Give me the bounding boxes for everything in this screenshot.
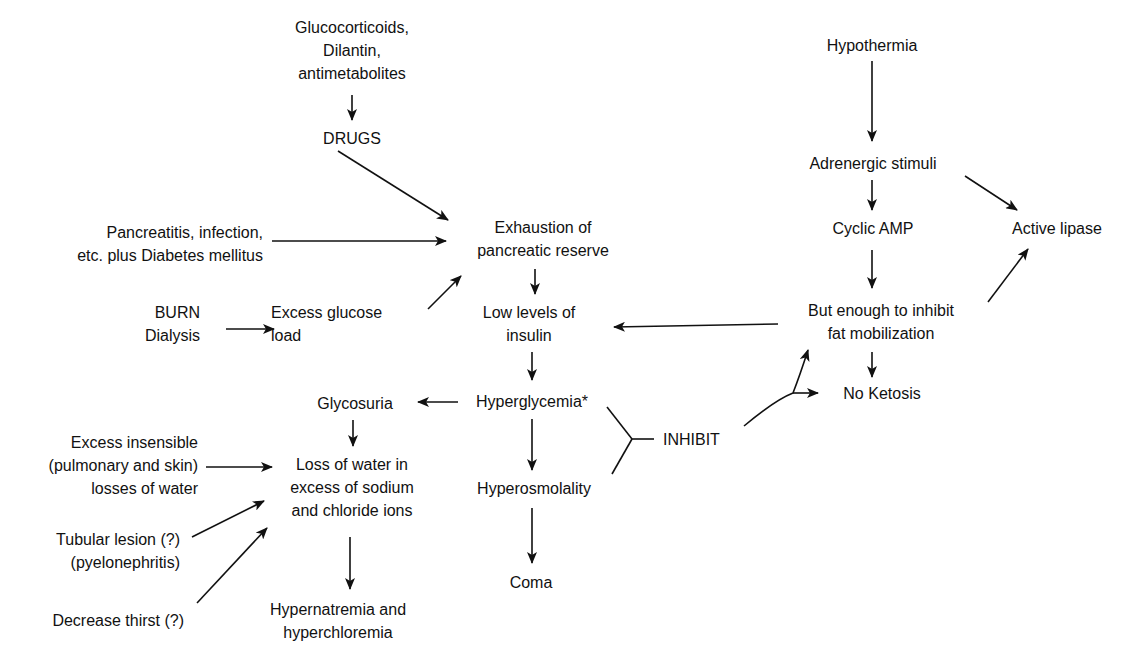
node-label-line: Hypernatremia and xyxy=(270,598,406,621)
node-label-line: Loss of water in xyxy=(290,453,414,476)
node-label-line: Hypothermia xyxy=(827,34,918,57)
node-label-line: Active lipase xyxy=(1012,217,1102,240)
node-hypothermia: Hypothermia xyxy=(827,34,918,57)
node-label-line: etc. plus Diabetes mellitus xyxy=(77,244,263,267)
node-label-line: Adrenergic stimuli xyxy=(809,152,936,175)
node-label-line: Cyclic AMP xyxy=(833,217,914,240)
bracket-upper-line xyxy=(607,407,632,439)
node-hyperglycemia: Hyperglycemia* xyxy=(476,390,588,413)
node-hyperosmolality: Hyperosmolality xyxy=(477,477,591,500)
node-label-line: insulin xyxy=(483,324,576,347)
node-label-line: Glycosuria xyxy=(317,392,393,415)
node-label-line: load xyxy=(271,324,382,347)
node-label-line: (pulmonary and skin) xyxy=(49,454,198,477)
node-burn: BURNDialysis xyxy=(145,301,200,347)
node-label-line: But enough to inhibit xyxy=(808,299,954,322)
node-low-insulin: Low levels ofinsulin xyxy=(483,301,576,347)
node-label-line: antimetabolites xyxy=(295,62,409,85)
node-but-enough: But enough to inhibitfat mobilization xyxy=(808,299,954,345)
node-label-line: and chloride ions xyxy=(290,499,414,522)
node-label-line: fat mobilization xyxy=(808,322,954,345)
node-loss-water: Loss of water inexcess of sodiumand chlo… xyxy=(290,453,414,522)
node-inhibit: INHIBIT xyxy=(663,428,720,451)
node-coma: Coma xyxy=(510,571,553,594)
node-label-line: losses of water xyxy=(49,477,198,500)
node-pancreatitis: Pancreatitis, infection,etc. plus Diabet… xyxy=(77,221,263,267)
node-label-line: Glucocorticoids, xyxy=(295,16,409,39)
arrow-drugs-to-exhaustion xyxy=(338,151,448,220)
inhibit-bracket xyxy=(607,407,654,474)
node-label-line: Pancreatitis, infection, xyxy=(77,221,263,244)
node-label-line: Exhaustion of xyxy=(477,216,609,239)
node-excess-glucose: Excess glucoseload xyxy=(271,301,382,347)
node-excess-insensible: Excess insensible(pulmonary and skin)los… xyxy=(49,431,198,500)
node-label-line: Hyperglycemia* xyxy=(476,390,588,413)
node-hypernatremia: Hypernatremia andhyperchloremia xyxy=(270,598,406,644)
arrow-but-enough-to-low-insulin xyxy=(614,324,778,327)
node-drugs: DRUGS xyxy=(323,127,381,150)
node-label-line: Hyperosmolality xyxy=(477,477,591,500)
node-label-line: (pyelonephritis) xyxy=(56,551,180,574)
node-label-line: Dialysis xyxy=(145,324,200,347)
arrow-but-enough-to-active-lipase xyxy=(988,249,1028,302)
node-label-line: Decrease thirst (?) xyxy=(52,609,184,632)
node-glycosuria: Glycosuria xyxy=(317,392,393,415)
node-label-line: Excess insensible xyxy=(49,431,198,454)
node-label-line: INHIBIT xyxy=(663,428,720,451)
bracket-lower-line xyxy=(612,439,632,474)
node-drug-list: Glucocorticoids,Dilantin,antimetabolites xyxy=(295,16,409,85)
arrow-adrenergic-to-active-lipase xyxy=(965,176,1017,210)
node-label-line: hyperchloremia xyxy=(270,621,406,644)
arrow-inhibit-to-but-enough xyxy=(744,350,808,426)
node-label-line: Dilantin, xyxy=(295,39,409,62)
node-active-lipase: Active lipase xyxy=(1012,217,1102,240)
node-label-line: Low levels of xyxy=(483,301,576,324)
arrow-tubular-to-loss-water xyxy=(192,501,264,537)
node-adrenergic: Adrenergic stimuli xyxy=(809,152,936,175)
node-no-ketosis: No Ketosis xyxy=(843,382,920,405)
node-exhaustion: Exhaustion ofpancreatic reserve xyxy=(477,216,609,262)
node-label-line: excess of sodium xyxy=(290,476,414,499)
node-tubular: Tubular lesion (?)(pyelonephritis) xyxy=(56,528,180,574)
node-label-line: No Ketosis xyxy=(843,382,920,405)
inhibit-curve-arrow xyxy=(744,350,818,426)
node-thirst: Decrease thirst (?) xyxy=(52,609,184,632)
node-label-line: Coma xyxy=(510,571,553,594)
node-label-line: BURN xyxy=(145,301,200,324)
node-label-line: Excess glucose xyxy=(271,301,382,324)
arrow-thirst-to-loss-water xyxy=(197,528,267,603)
node-label-line: Tubular lesion (?) xyxy=(56,528,180,551)
node-label-line: DRUGS xyxy=(323,127,381,150)
node-label-line: pancreatic reserve xyxy=(477,239,609,262)
arrow-excess-glucose-to-exhaustion xyxy=(428,276,461,309)
node-cyclic-amp: Cyclic AMP xyxy=(833,217,914,240)
